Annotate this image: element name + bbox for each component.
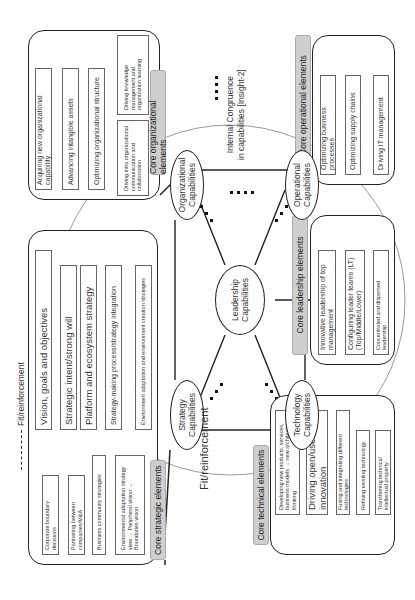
strat-item-1: Vision, goals and objectives bbox=[35, 250, 52, 430]
lead-item-1: Innovative leadership of top management bbox=[318, 250, 336, 355]
strat-item-2: Strategic intent/strong will bbox=[60, 265, 77, 430]
tech-item-4: Refining existing technology bbox=[356, 430, 370, 515]
tag-leadership: Core leadership elements bbox=[292, 215, 308, 355]
tag-strategic: Core strategic elements bbox=[150, 460, 166, 560]
cap-technology: Technology Capabilities bbox=[285, 380, 319, 450]
org-item-3: Optimizing organizational structure bbox=[88, 68, 105, 190]
ops-item-1: Optimizing business processes bbox=[320, 75, 336, 175]
tech-item-5: Transferring technical intellectual prop… bbox=[375, 430, 391, 515]
strat-item-4: Strategy-making process/strategy integra… bbox=[105, 265, 122, 430]
lead-item-3: Concentrated and dispersed leadership bbox=[373, 250, 389, 355]
ops-item-3: Driving IT management bbox=[373, 75, 389, 175]
tag-organizational: Core organizational elements bbox=[150, 70, 166, 175]
strat-sub-3: Business community strategies bbox=[92, 455, 106, 555]
internal-congruence-label: Internal Congruencein capabilities [Insi… bbox=[225, 69, 247, 160]
org-item-2: Advancing intangible assets bbox=[62, 68, 79, 190]
cap-organizational: Organizational Capabilities bbox=[170, 150, 204, 220]
legend-dashed: Fit/reinforcement bbox=[16, 362, 26, 470]
cap-leadership: Leadership Capabilities bbox=[215, 265, 265, 335]
lead-item-2: Configuring leader teams (LT) (Top/Middl… bbox=[345, 250, 365, 355]
fit-reinforcement-label: Fit/reinforcement bbox=[198, 407, 210, 490]
ops-item-2: Optimizing supply chains bbox=[345, 75, 361, 175]
tag-technical: Core technical elements bbox=[253, 445, 269, 545]
org-item-5: Driving intra organizational communicati… bbox=[117, 120, 149, 196]
org-item-4: Driving knowledge management and organiz… bbox=[117, 35, 149, 115]
cap-operational: Operational Capabilities bbox=[285, 150, 319, 220]
diagram-canvas: Fit/reinforcement Acquiring new organiza… bbox=[0, 0, 415, 600]
org-item-1: Acquiring new organizational capability bbox=[35, 68, 52, 190]
strat-sub-1: Corporate boundary decisions bbox=[42, 475, 59, 555]
strat-sub-4: Environmental adaptation strategy view →… bbox=[115, 455, 145, 555]
tech-item-3: Fusing and integrating different technol… bbox=[336, 410, 350, 515]
strat-sub-2: Partnering between companies/M&A bbox=[68, 475, 85, 555]
strat-item-5: Environment adaptation and environment c… bbox=[135, 265, 152, 430]
strat-item-3: Platform and ecosystem strategy bbox=[80, 265, 97, 430]
